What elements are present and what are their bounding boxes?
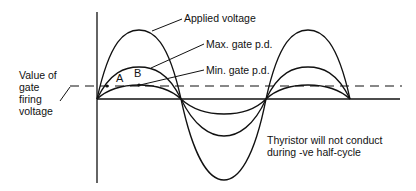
firing-voltage-label-3: firing xyxy=(19,93,42,105)
max-gate-leader xyxy=(151,44,204,68)
min-gate-pd-label: Min. gate p.d. xyxy=(206,64,270,76)
point-b-marker xyxy=(137,83,140,86)
firing-voltage-leader xyxy=(60,87,70,101)
min-gate-leader xyxy=(140,70,204,85)
point-b-label: B xyxy=(134,67,141,79)
point-a-label: A xyxy=(116,72,123,84)
thyristor-waveform-diagram xyxy=(0,0,416,191)
firing-voltage-label-1: Value of xyxy=(19,69,57,81)
firing-voltage-label-2: gate xyxy=(19,81,39,93)
applied-voltage-label: Applied voltage xyxy=(184,12,256,24)
firing-voltage-label-4: voltage xyxy=(19,105,53,117)
point-a-marker xyxy=(105,84,108,87)
applied-voltage-leader xyxy=(152,19,182,31)
note-label-2: during -ve half-cycle xyxy=(267,146,361,158)
note-label-1: Thyristor will not conduct xyxy=(267,134,383,146)
max-gate-pd-label: Max. gate p.d. xyxy=(206,38,273,50)
